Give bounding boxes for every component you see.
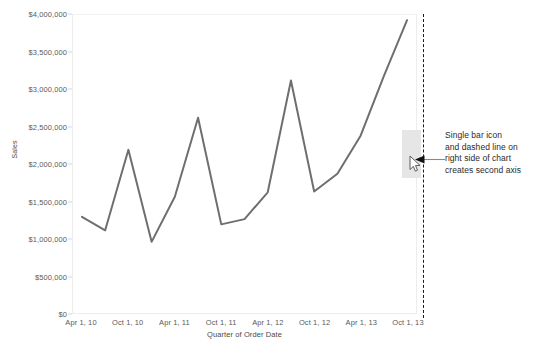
x-tick-label: Apr 1, 10 bbox=[65, 318, 96, 327]
x-tick-label: Oct 1, 12 bbox=[299, 318, 330, 327]
line-series-svg bbox=[73, 15, 416, 313]
y-tick-label: $3,000,000 bbox=[28, 85, 67, 94]
sales-line bbox=[82, 20, 407, 242]
annotation-leader-line bbox=[415, 155, 445, 164]
second-axis-dashed-line bbox=[423, 14, 424, 318]
chart-screenshot: Sales $0$500,000$1,000,000$1,500,000$2,0… bbox=[0, 0, 554, 352]
y-tick-label: $2,000,000 bbox=[28, 160, 67, 169]
y-axis-ticks: $0$500,000$1,000,000$1,500,000$2,000,000… bbox=[0, 14, 72, 314]
x-tick-label: Oct 1, 11 bbox=[206, 318, 237, 327]
y-tick-label: $2,500,000 bbox=[28, 122, 67, 131]
annotation-callout: Single bar icon and dashed line on right… bbox=[445, 130, 553, 176]
y-tick-label: $3,500,000 bbox=[28, 47, 67, 56]
y-tick-label: $500,000 bbox=[35, 272, 67, 281]
y-tick-label: $1,500,000 bbox=[28, 197, 67, 206]
single-bar-icon[interactable] bbox=[402, 130, 421, 178]
plot-area bbox=[72, 14, 417, 314]
chart-figure: Sales $0$500,000$1,000,000$1,500,000$2,0… bbox=[0, 0, 430, 352]
x-tick-label: Oct 1, 10 bbox=[112, 318, 143, 327]
x-tick-label: Apr 1, 12 bbox=[252, 318, 283, 327]
x-tick-label: Apr 1, 13 bbox=[346, 318, 377, 327]
x-tick-label: Oct 1, 13 bbox=[392, 318, 423, 327]
x-axis-title: Quarter of Order Date bbox=[72, 330, 417, 339]
y-tick-label: $4,000,000 bbox=[28, 10, 67, 19]
annotation-text: Single bar icon and dashed line on right… bbox=[445, 130, 553, 176]
y-tick-label: $1,000,000 bbox=[28, 235, 67, 244]
x-tick-label: Apr 1, 11 bbox=[159, 318, 190, 327]
